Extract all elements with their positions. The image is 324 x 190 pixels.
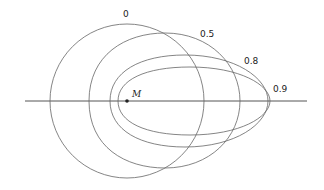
curves-figure	[0, 0, 324, 190]
point-m-marker	[125, 99, 129, 103]
curve-label-0-9: 0.9	[273, 84, 287, 94]
curve-label-0: 0	[123, 9, 129, 19]
point-m-label: M	[132, 89, 141, 99]
diagram-canvas: M 0 0.5 0.8 0.9	[0, 0, 324, 190]
curve-label-0-5: 0.5	[200, 29, 214, 39]
curve-label-0-8: 0.8	[244, 56, 258, 66]
